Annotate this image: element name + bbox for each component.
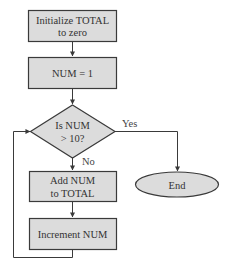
node-text: Initialize TOTAL [36, 15, 109, 26]
node-end: End [136, 172, 219, 197]
node-text: Increment NUM [38, 229, 108, 240]
edge-label-no: No [82, 156, 95, 167]
node-text: NUM = 1 [52, 68, 93, 79]
node-text: to TOTAL [51, 188, 95, 199]
node-decision-num-gt-10: Is NUM > 10? [31, 105, 116, 158]
node-initialize-total: Initialize TOTAL to zero [29, 11, 117, 42]
flowchart: Initialize TOTAL to zero NUM = 1 Is NUM … [0, 0, 234, 269]
node-add-num-to-total: Add NUM to TOTAL [30, 172, 117, 202]
node-text: > 10? [61, 133, 85, 144]
node-increment-num: Increment NUM [30, 219, 117, 250]
node-text: End [169, 180, 187, 191]
node-text: to zero [58, 27, 87, 38]
edge-label-yes: Yes [122, 118, 137, 129]
node-num-equals-1: NUM = 1 [29, 58, 117, 89]
node-text: Is NUM [55, 120, 90, 131]
node-text: Add NUM [50, 175, 96, 186]
edge-check-to-end-yes [115, 132, 178, 172]
